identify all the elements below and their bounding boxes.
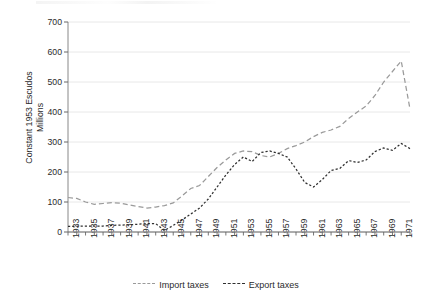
legend-label: Export taxes [249, 280, 299, 290]
series-line-export-taxes [68, 144, 410, 231]
axis-lines [68, 22, 410, 232]
legend-label: Import taxes [159, 280, 209, 290]
series-line-import-taxes [68, 61, 410, 208]
legend-item-export-taxes[interactable]: Export taxes [223, 279, 299, 290]
data-series-layer [68, 61, 410, 231]
chart-container: Constant 1953 Escudos Millions 010020030… [0, 0, 432, 301]
chart-legend: Import taxesExport taxes [0, 279, 432, 290]
plot-area [0, 0, 432, 301]
gridlines [68, 22, 410, 232]
legend-swatch-icon [223, 283, 245, 284]
legend-item-import-taxes[interactable]: Import taxes [133, 279, 209, 290]
legend-swatch-icon [133, 283, 155, 284]
